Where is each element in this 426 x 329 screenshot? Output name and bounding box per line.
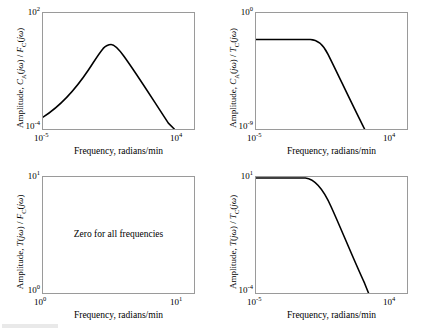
y-tick-top-top-right: 100 xyxy=(227,5,253,17)
curve-top-left xyxy=(43,13,194,129)
panel-bottom-right: Amplitude, T(jω) / TC(jω) 101 10-4 10-5 … xyxy=(213,164,426,328)
plot-frame-bottom-right xyxy=(255,176,408,294)
panel-bottom-left: Amplitude, T(jω) / FC(jω) 101 100 Zero f… xyxy=(0,164,213,328)
x-tick-right-bottom-right: 104 xyxy=(383,295,395,307)
curve-top-right xyxy=(256,13,407,129)
y-tick-top-bottom-left: 101 xyxy=(14,169,40,181)
x-tick-left-top-left: 10-5 xyxy=(34,131,48,143)
y-tick-bottom-bottom-left: 100 xyxy=(12,283,40,295)
x-tick-right-top-left: 104 xyxy=(170,131,182,143)
x-tick-left-bottom-right: 10-5 xyxy=(247,295,261,307)
plot-frame-top-left xyxy=(42,12,195,130)
zero-response-annotation: Zero for all frequencies xyxy=(43,229,194,239)
four-panel-bode-figure: Amplitude, CA(jω) / FC(jω) 102 10-4 10-5… xyxy=(0,0,426,329)
x-axis-label-top-left: Frequency, radians/min xyxy=(42,146,195,156)
y-tick-top-top-left: 102 xyxy=(14,5,40,17)
y-tick-bottom-top-left: 10-4 xyxy=(12,119,40,131)
y-tick-bottom-bottom-right: 10-4 xyxy=(225,283,253,295)
y-tick-top-bottom-right: 101 xyxy=(227,169,253,181)
y-tick-bottom-top-right: 10-9 xyxy=(225,119,253,131)
x-tick-left-top-right: 10-5 xyxy=(247,131,261,143)
x-tick-right-bottom-left: 101 xyxy=(170,295,182,307)
plot-frame-bottom-left: Zero for all frequencies xyxy=(42,176,195,294)
curve-bottom-right xyxy=(256,177,407,293)
x-tick-right-top-right: 104 xyxy=(383,131,395,143)
x-axis-label-bottom-left: Frequency, radians/min xyxy=(42,310,195,320)
x-axis-label-top-right: Frequency, radians/min xyxy=(255,146,408,156)
plot-frame-top-right xyxy=(255,12,408,130)
panel-top-right: Amplitude, CA(jω) / TC(jω) 100 10-9 10-5… xyxy=(213,0,426,164)
x-axis-label-bottom-right: Frequency, radians/min xyxy=(255,310,408,320)
panel-top-left: Amplitude, CA(jω) / FC(jω) 102 10-4 10-5… xyxy=(0,0,213,164)
scan-artifact xyxy=(2,324,58,328)
x-tick-left-bottom-left: 100 xyxy=(34,295,46,307)
